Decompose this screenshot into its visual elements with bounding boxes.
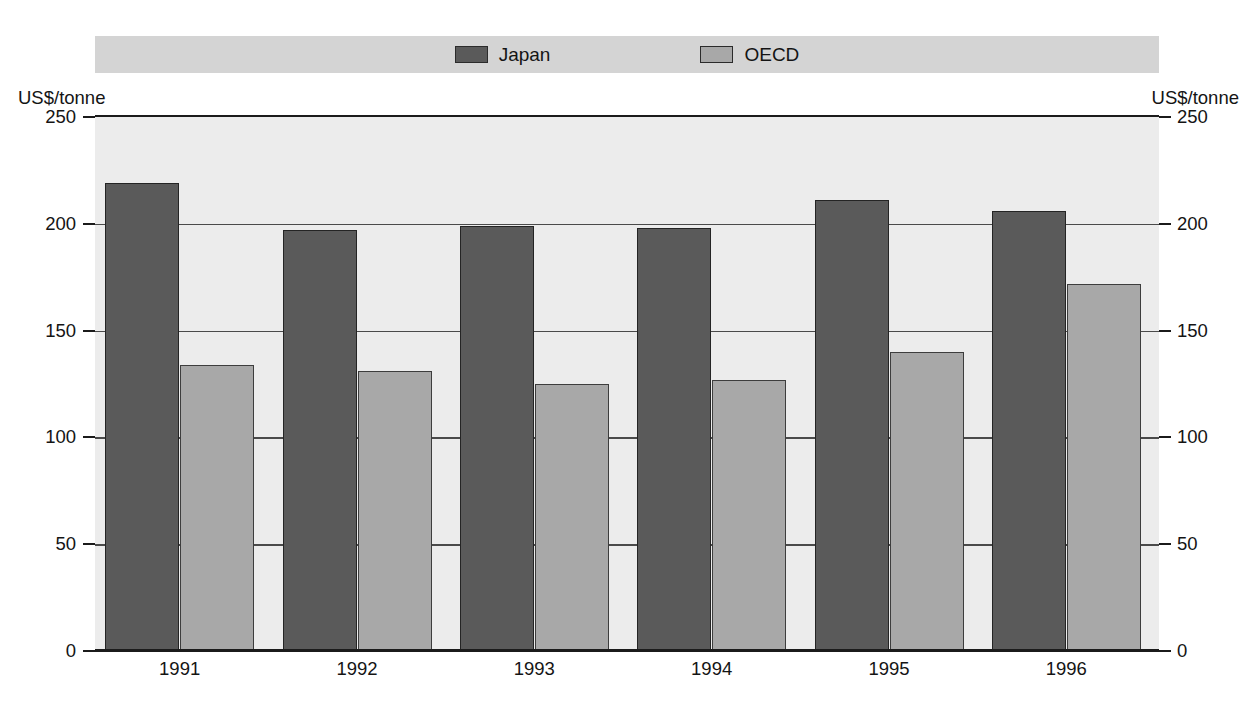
legend-label-oecd: OECD — [744, 45, 799, 64]
legend-entry-japan: Japan — [455, 45, 551, 64]
y-tick-label-left-250: 250 — [45, 108, 76, 127]
bar-japan-1993 — [460, 226, 534, 651]
y-tick-left-100 — [83, 436, 95, 438]
x-tick-label-1995: 1995 — [815, 660, 964, 679]
bar-japan-1991 — [105, 183, 179, 651]
y-tick-label-right-200: 200 — [1177, 215, 1208, 234]
bar-oecd-1991 — [180, 365, 254, 651]
y-tick-label-left-0: 0 — [66, 642, 76, 661]
y-tick-label-left-150: 150 — [45, 322, 76, 341]
legend-label-japan: Japan — [499, 45, 551, 64]
y-tick-label-left-100: 100 — [45, 428, 76, 447]
y-tick-right-150 — [1159, 330, 1171, 332]
x-tick-label-1993: 1993 — [460, 660, 609, 679]
bar-oecd-1996 — [1067, 284, 1141, 651]
x-tick-label-1991: 1991 — [105, 660, 254, 679]
x-tick-label-1994: 1994 — [637, 660, 786, 679]
y-tick-label-right-250: 250 — [1177, 108, 1208, 127]
plot-area — [95, 117, 1159, 651]
y-tick-right-100 — [1159, 436, 1171, 438]
bar-oecd-1995 — [890, 352, 964, 651]
bar-japan-1994 — [637, 228, 711, 651]
y-tick-left-50 — [83, 543, 95, 545]
y-tick-right-50 — [1159, 543, 1171, 545]
y-tick-right-200 — [1159, 223, 1171, 225]
bar-oecd-1994 — [712, 380, 786, 651]
x-tick-label-1996: 1996 — [992, 660, 1141, 679]
legend-swatch-oecd — [700, 46, 733, 63]
y-tick-left-0 — [83, 650, 95, 652]
y-tick-left-250 — [83, 116, 95, 118]
y-tick-label-right-150: 150 — [1177, 322, 1208, 341]
y-tick-left-200 — [83, 223, 95, 225]
y-tick-label-right-0: 0 — [1177, 642, 1187, 661]
y-tick-label-left-50: 50 — [55, 535, 76, 554]
y-tick-label-right-50: 50 — [1177, 535, 1198, 554]
x-tick-label-1992: 1992 — [283, 660, 432, 679]
y-tick-right-250 — [1159, 116, 1171, 118]
y-tick-left-150 — [83, 330, 95, 332]
bar-japan-1992 — [283, 230, 357, 651]
bar-japan-1995 — [815, 200, 889, 651]
y-tick-right-0 — [1159, 650, 1171, 652]
bar-japan-1996 — [992, 211, 1066, 651]
plot-baseline-axis — [95, 649, 1159, 652]
y-tick-label-left-200: 200 — [45, 215, 76, 234]
chart-legend: Japan OECD — [95, 36, 1159, 73]
legend-swatch-japan — [455, 46, 488, 63]
bar-oecd-1993 — [535, 384, 609, 651]
y-tick-label-right-100: 100 — [1177, 428, 1208, 447]
bar-oecd-1992 — [358, 371, 432, 651]
legend-entry-oecd: OECD — [700, 45, 799, 64]
